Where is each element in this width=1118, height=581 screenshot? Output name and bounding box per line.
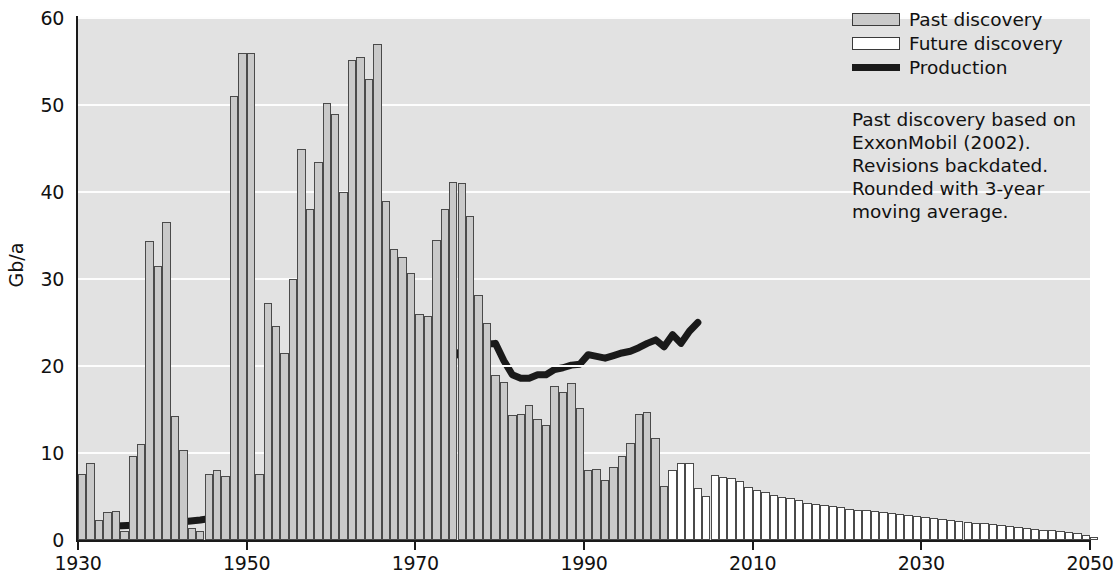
plot-area xyxy=(78,18,1090,540)
bar xyxy=(120,531,128,540)
bar xyxy=(1065,532,1073,540)
bar xyxy=(221,476,229,540)
bar xyxy=(972,523,980,540)
x-tick-label: 1950 xyxy=(223,552,270,574)
y-tick-label: 40 xyxy=(18,181,64,203)
bar xyxy=(820,505,828,540)
x-tick xyxy=(752,540,754,550)
bar xyxy=(365,79,373,540)
bar xyxy=(921,517,929,540)
bar xyxy=(702,496,710,540)
bar xyxy=(1073,533,1081,540)
bar xyxy=(609,467,617,540)
bar xyxy=(483,323,491,541)
discovery-production-chart: Gb/a Past discovery Future discovery Pro… xyxy=(0,0,1118,581)
bar xyxy=(297,149,305,541)
bar xyxy=(491,375,499,540)
bar xyxy=(770,495,778,540)
bar xyxy=(719,477,727,541)
bar xyxy=(786,498,794,540)
bar xyxy=(879,512,887,540)
bar xyxy=(997,525,1005,540)
bar xyxy=(188,528,196,540)
bar xyxy=(196,531,204,540)
bar xyxy=(86,463,94,540)
bar xyxy=(854,510,862,540)
bar xyxy=(154,266,162,540)
x-tick-label: 2050 xyxy=(1066,552,1113,574)
bar xyxy=(339,192,347,540)
x-tick-label: 2010 xyxy=(729,552,776,574)
bar xyxy=(677,463,685,540)
bar xyxy=(1048,530,1056,540)
bar xyxy=(95,520,103,540)
bar xyxy=(896,514,904,540)
bar xyxy=(171,416,179,540)
bar xyxy=(1056,531,1064,540)
legend-item-future-discovery: Future discovery xyxy=(852,32,1102,54)
bar xyxy=(651,438,659,540)
bar xyxy=(1006,526,1014,540)
bar xyxy=(112,511,120,540)
bar xyxy=(129,456,137,540)
bar xyxy=(145,241,153,540)
legend-swatch-production xyxy=(852,64,900,71)
bar xyxy=(449,182,457,540)
x-tick xyxy=(1089,540,1091,550)
x-tick xyxy=(77,540,79,550)
bar xyxy=(845,509,853,540)
bar xyxy=(938,519,946,540)
x-tick-label: 2030 xyxy=(898,552,945,574)
bar xyxy=(306,209,314,540)
bar xyxy=(643,412,651,540)
bar xyxy=(668,470,676,540)
bar xyxy=(829,506,837,540)
y-tick-label: 30 xyxy=(18,268,64,290)
bar xyxy=(888,513,896,540)
bar xyxy=(230,96,238,540)
bar xyxy=(626,443,634,540)
bar xyxy=(1090,537,1098,540)
bar xyxy=(280,353,288,540)
bar xyxy=(913,516,921,540)
bar xyxy=(398,257,406,540)
bar xyxy=(778,497,786,541)
bar xyxy=(592,469,600,540)
legend-swatch-future-discovery xyxy=(852,37,900,50)
legend-item-production: Production xyxy=(852,56,1102,78)
x-tick-label: 1970 xyxy=(392,552,439,574)
bar xyxy=(803,503,811,540)
bar xyxy=(264,303,272,541)
bar xyxy=(331,114,339,540)
bar xyxy=(694,488,702,540)
bar xyxy=(744,487,752,540)
bar xyxy=(103,512,111,540)
x-tick xyxy=(583,540,585,550)
bar xyxy=(837,507,845,540)
bar xyxy=(247,53,255,540)
bar xyxy=(584,470,592,540)
bar xyxy=(955,521,963,540)
bar xyxy=(458,183,466,540)
x-tick xyxy=(246,540,248,550)
bar xyxy=(441,209,449,540)
bar xyxy=(424,316,432,540)
bar xyxy=(255,474,263,540)
bar xyxy=(137,444,145,540)
chart-legend: Past discovery Future discovery Producti… xyxy=(852,8,1102,80)
bar xyxy=(601,480,609,540)
bar xyxy=(323,103,331,540)
bar xyxy=(390,249,398,540)
bar xyxy=(618,456,626,540)
x-tick-label: 1990 xyxy=(560,552,607,574)
legend-label-future-discovery: Future discovery xyxy=(909,33,1063,54)
bar xyxy=(711,475,719,540)
legend-label-production: Production xyxy=(909,57,1007,78)
bar xyxy=(1039,530,1047,540)
bar xyxy=(356,57,364,540)
bar xyxy=(525,405,533,540)
x-tick-label: 1930 xyxy=(54,552,101,574)
bar xyxy=(213,470,221,540)
bar xyxy=(289,279,297,540)
bar xyxy=(508,415,516,540)
